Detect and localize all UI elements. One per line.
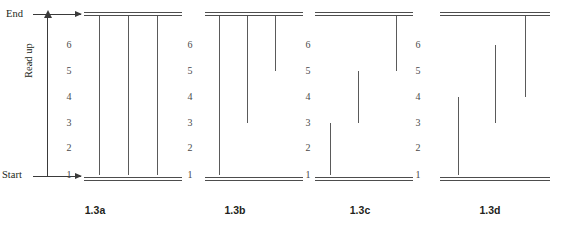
panel-caption: 1.3a: [65, 205, 125, 216]
tick-label-6: 6: [184, 40, 196, 50]
stroke-line: [247, 16, 248, 123]
tick-label-2: 2: [184, 143, 196, 153]
figure-root: End Start Read up 6543211.3a6543211.3b65…: [0, 0, 563, 231]
tick-label-1: 1: [412, 170, 424, 180]
tick-label-4: 4: [63, 92, 75, 102]
stroke-line: [99, 16, 100, 175]
tick-label-1: 1: [63, 170, 75, 180]
stroke-line: [458, 97, 459, 175]
read-up-arrow-icon: [47, 17, 48, 177]
tick-label-2: 2: [302, 143, 314, 153]
stroke-line: [157, 16, 158, 175]
read-up-label: Read up: [24, 43, 35, 78]
tick-label-5: 5: [63, 66, 75, 76]
tick-label-4: 4: [412, 92, 424, 102]
end-bar: [440, 12, 550, 16]
stroke-line: [358, 71, 359, 123]
stroke-line: [219, 16, 220, 175]
stroke-line: [396, 16, 397, 71]
tick-label-5: 5: [412, 66, 424, 76]
start-bar: [440, 177, 550, 181]
panel-caption: 1.3b: [205, 205, 265, 216]
tick-label-1: 1: [302, 170, 314, 180]
tick-label-3: 3: [412, 118, 424, 128]
start-bar: [205, 177, 303, 181]
tick-label-3: 3: [184, 118, 196, 128]
tick-label-5: 5: [184, 66, 196, 76]
start-bar: [84, 177, 182, 181]
stroke-line: [128, 16, 129, 175]
end-bar: [315, 12, 413, 16]
tick-label-6: 6: [63, 40, 75, 50]
stroke-line: [330, 123, 331, 175]
stroke-line: [525, 16, 526, 97]
tick-label-3: 3: [302, 118, 314, 128]
tick-label-4: 4: [184, 92, 196, 102]
end-arrow-icon: [33, 14, 81, 15]
panel-caption: 1.3d: [460, 205, 520, 216]
start-bar: [315, 177, 413, 181]
tick-label-4: 4: [302, 92, 314, 102]
tick-label-1: 1: [184, 170, 196, 180]
stroke-line: [275, 16, 276, 71]
tick-label-6: 6: [412, 40, 424, 50]
stroke-line: [495, 45, 496, 123]
tick-label-2: 2: [63, 143, 75, 153]
end-label: End: [6, 9, 23, 20]
start-label: Start: [2, 170, 22, 181]
tick-label-5: 5: [302, 66, 314, 76]
tick-label-3: 3: [63, 118, 75, 128]
tick-label-2: 2: [412, 143, 424, 153]
tick-label-6: 6: [302, 40, 314, 50]
panel-caption: 1.3c: [330, 205, 390, 216]
